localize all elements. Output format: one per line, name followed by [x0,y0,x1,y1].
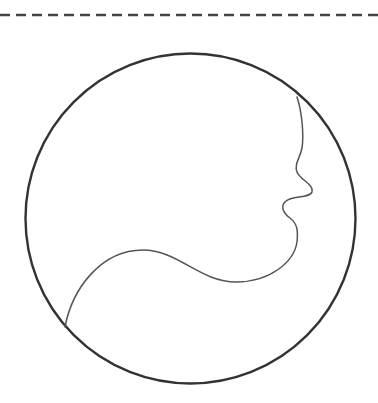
background [0,0,378,403]
figure-canvas [0,0,378,403]
